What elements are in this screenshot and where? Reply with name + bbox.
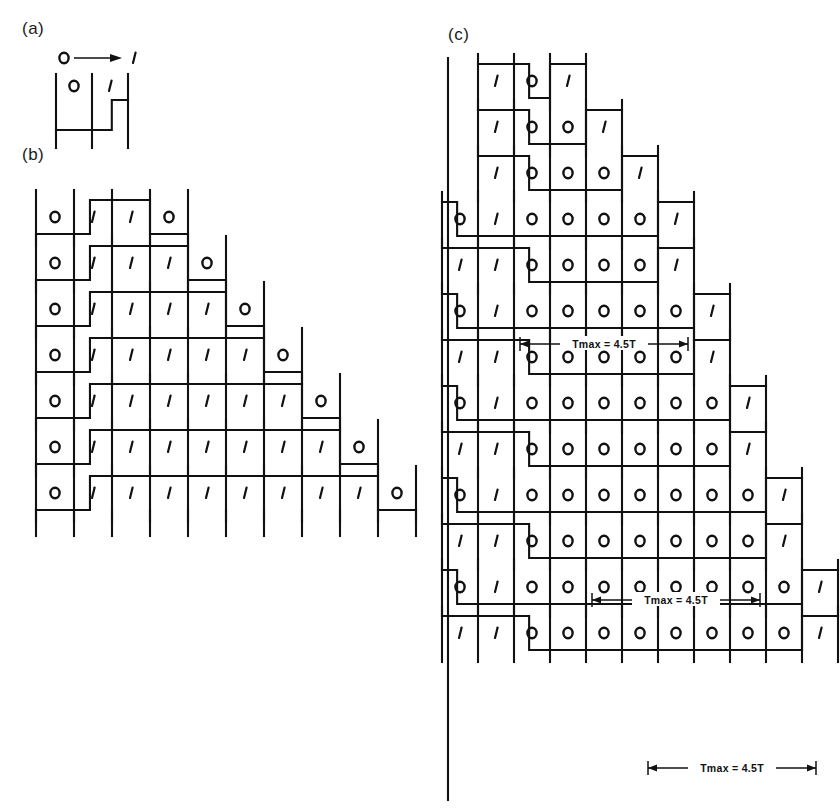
dimension-label: Tmax = 4.5T [572,338,636,350]
dimension-label: Tmax = 4.5T [644,594,708,606]
dimension-label: Tmax = 4.5T [700,762,764,774]
panel-label-a: (a) [22,19,44,38]
waveform-figure: Tmax = 4.5TTmax = 4.5TTmax = 4.5T (a)(b)… [0,0,840,808]
figure-canvas: Tmax = 4.5TTmax = 4.5TTmax = 4.5T (a)(b)… [0,0,840,808]
panel-label-c: (c) [448,25,469,44]
figure-background [0,0,840,808]
panel-label-b: (b) [22,145,44,164]
